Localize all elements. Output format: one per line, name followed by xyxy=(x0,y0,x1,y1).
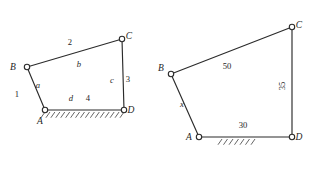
hatch-tick xyxy=(66,112,70,118)
joint-d xyxy=(121,107,126,112)
link-BC-symbol-label: b xyxy=(77,59,82,69)
ground-hatching xyxy=(218,139,255,145)
hatch-tick xyxy=(71,112,75,118)
link-CD-number-label: 3 xyxy=(126,74,130,84)
diagram-right: ABCDx503530 xyxy=(158,20,303,145)
joint-label-d: D xyxy=(295,132,303,142)
joint-label-b: B xyxy=(10,62,16,72)
hatch-tick xyxy=(95,112,99,118)
link-CD xyxy=(122,39,124,110)
hatch-tick xyxy=(51,112,55,118)
joint-b xyxy=(24,64,29,69)
joint-c xyxy=(289,24,294,29)
joint-b xyxy=(168,71,173,76)
joint-label-c: C xyxy=(296,20,303,30)
hatch-tick xyxy=(61,112,65,118)
hatch-tick xyxy=(80,112,84,118)
figure-root: ABCD1a2b3c4dABCDx503530 xyxy=(0,0,330,178)
link-CD-value-label: 35 xyxy=(277,82,287,91)
hatch-tick xyxy=(85,112,89,118)
hatch-tick xyxy=(251,139,255,145)
hatch-tick xyxy=(115,112,119,118)
link-AB-value-label: x xyxy=(179,99,184,109)
hatch-tick xyxy=(105,112,109,118)
joint-a xyxy=(196,134,201,139)
hatch-tick xyxy=(76,112,80,118)
joint-label-c: C xyxy=(126,31,133,41)
joint-d xyxy=(289,134,294,139)
linkage-figure-canvas: ABCD1a2b3c4dABCDx503530 xyxy=(0,0,330,178)
diagram-left: ABCD1a2b3c4d xyxy=(10,31,134,126)
link-BC xyxy=(27,39,122,67)
hatch-tick xyxy=(218,139,222,145)
hatch-tick xyxy=(229,139,233,145)
joint-a xyxy=(42,107,47,112)
link-CD-symbol-label: c xyxy=(110,75,114,85)
hatch-tick xyxy=(240,139,244,145)
link-BC-number-label: 2 xyxy=(68,37,72,47)
joint-c xyxy=(119,36,124,41)
link-BC-value-label: 50 xyxy=(223,61,232,71)
hatch-tick xyxy=(223,139,227,145)
joint-label-b: B xyxy=(158,63,164,73)
link-AB-symbol-label: a xyxy=(36,80,40,90)
hatch-tick xyxy=(56,112,60,118)
joint-label-d: D xyxy=(127,105,135,115)
link-BC xyxy=(171,27,292,74)
link-AD-value-label: 30 xyxy=(239,120,248,130)
hatch-tick xyxy=(245,139,249,145)
ground-hatching xyxy=(41,112,124,118)
hatch-tick xyxy=(110,112,114,118)
joint-label-a: A xyxy=(36,116,43,126)
hatch-tick xyxy=(90,112,94,118)
link-AB-number-label: 1 xyxy=(15,89,19,99)
link-AD-symbol-label: d xyxy=(69,93,74,103)
link-AD-number-label: 4 xyxy=(86,93,91,103)
joint-label-a: A xyxy=(185,132,192,142)
hatch-tick xyxy=(234,139,238,145)
link-AB xyxy=(171,74,199,137)
hatch-tick xyxy=(100,112,104,118)
